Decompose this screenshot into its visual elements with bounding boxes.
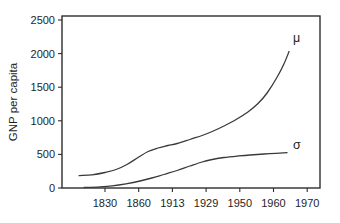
x-tick-label-1913: 1913 — [160, 197, 184, 209]
series-line-mu — [79, 52, 289, 176]
y-axis-title: GNP per capita — [7, 62, 19, 141]
x-tick-label-1929: 1929 — [194, 197, 218, 209]
plot-box — [62, 16, 320, 188]
y-tick-label-1500: 1500 — [31, 81, 55, 93]
x-tick-label-1970: 1970 — [295, 197, 319, 209]
x-tick-label-1960: 1960 — [261, 197, 285, 209]
gnp-per-capita-chart-figure: 0500100015002000250018301860191319291950… — [0, 0, 340, 223]
x-tick-label-1830: 1830 — [93, 197, 117, 209]
series-label-mu: μ — [293, 31, 300, 45]
y-tick-label-2500: 2500 — [31, 14, 55, 26]
y-tick-label-2000: 2000 — [31, 48, 55, 60]
y-tick-label-0: 0 — [49, 182, 55, 194]
x-tick-label-1860: 1860 — [126, 197, 150, 209]
chart-canvas: 0500100015002000250018301860191319291950… — [0, 0, 340, 223]
series-label-sigma: σ — [293, 138, 301, 152]
y-tick-label-500: 500 — [37, 148, 55, 160]
x-tick-label-1950: 1950 — [228, 197, 252, 209]
y-tick-label-1000: 1000 — [31, 115, 55, 127]
